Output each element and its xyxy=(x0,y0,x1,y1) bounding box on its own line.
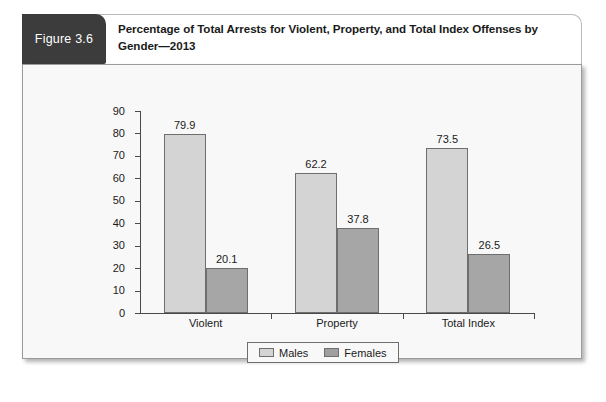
x-axis-divider-tick xyxy=(534,313,535,319)
bar-value-label: 26.5 xyxy=(462,239,516,251)
y-axis-tick-label: 50 xyxy=(99,195,125,206)
bar-value-label: 79.9 xyxy=(158,119,212,131)
y-axis-tick-label: 10 xyxy=(99,285,125,296)
y-axis-tick-label: 70 xyxy=(99,150,125,161)
bar-violent-males xyxy=(164,134,206,313)
x-axis-category-label: Total Index xyxy=(403,317,534,330)
y-axis-tick-label: 40 xyxy=(99,218,125,229)
x-axis-category-label: Violent xyxy=(140,317,271,330)
legend-swatch-males-icon xyxy=(259,348,274,357)
legend-entry-males: Males xyxy=(259,347,308,359)
y-axis-tick-label: 0 xyxy=(99,308,125,319)
y-axis-tick-labels: 0102030405060708090 xyxy=(95,65,125,358)
bar-violent-females xyxy=(206,268,248,313)
figure-title: Percentage of Total Arrests for Violent,… xyxy=(118,21,558,54)
legend-label-females: Females xyxy=(344,347,386,359)
bar-value-label: 20.1 xyxy=(200,253,254,265)
y-axis-tick-label: 80 xyxy=(99,128,125,139)
bar-value-label: 62.2 xyxy=(289,158,343,170)
figure-card: Figure 3.6 Percentage of Total Arrests f… xyxy=(22,14,584,362)
y-axis-tick-label: 20 xyxy=(99,263,125,274)
y-axis-tick-label: 60 xyxy=(99,173,125,184)
bar-property-females xyxy=(337,228,379,313)
bar-value-label: 73.5 xyxy=(420,133,474,145)
y-axis-tick-label: 30 xyxy=(99,240,125,251)
bar-value-label: 37.8 xyxy=(331,213,385,225)
x-axis-category-label: Property xyxy=(271,317,402,330)
legend-swatch-females-icon xyxy=(324,348,339,357)
bar-property-males xyxy=(295,173,337,313)
bar-total-index-females xyxy=(468,254,510,313)
bars-layer xyxy=(140,111,534,313)
chart-panel: 0102030405060708090 Males Females 79.920… xyxy=(22,64,582,359)
bar-chart-plot: 0102030405060708090 Males Females 79.920… xyxy=(23,65,581,358)
legend-entry-females: Females xyxy=(324,347,386,359)
y-axis-tick-label: 90 xyxy=(99,106,125,117)
figure-header: Figure 3.6 Percentage of Total Arrests f… xyxy=(22,14,584,66)
legend-label-males: Males xyxy=(279,347,308,359)
bar-total-index-males xyxy=(426,148,468,313)
chart-legend: Males Females xyxy=(247,342,399,363)
x-axis-line xyxy=(140,313,534,314)
figure-number-label: Figure 3.6 xyxy=(35,32,93,46)
figure-number-badge: Figure 3.6 xyxy=(22,14,106,64)
